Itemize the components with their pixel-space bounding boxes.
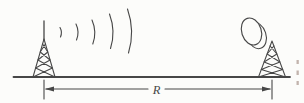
edge-fragment: [297, 71, 299, 76]
diagram-canvas: R: [0, 0, 304, 103]
edge-fragment: [297, 60, 299, 64]
edge-fragment: [297, 81, 299, 85]
edge-text-fragments: [297, 60, 299, 85]
radio-link-diagram: R: [0, 0, 304, 103]
distance-label: R: [152, 83, 161, 97]
